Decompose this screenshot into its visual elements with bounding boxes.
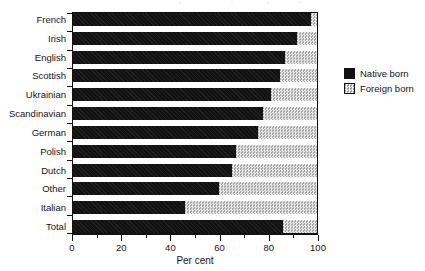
bar-row — [73, 13, 317, 26]
x-axis-tick-label: 100 — [310, 242, 326, 253]
x-axis-major-tick — [318, 235, 319, 241]
x-axis-major-tick — [121, 235, 122, 241]
bar-segment-foreign-born — [280, 69, 317, 82]
bar-segment-foreign-born — [185, 201, 317, 214]
bar-segment-native-born — [73, 32, 297, 45]
y-axis-label: Other — [0, 182, 66, 195]
x-axis-minor-tick — [97, 235, 98, 238]
bar-segment-foreign-born — [297, 32, 317, 45]
x-axis-major-tick — [170, 235, 171, 241]
x-axis-major-tick — [220, 235, 221, 241]
bar-row — [73, 51, 317, 64]
legend-item: Native born — [344, 68, 422, 79]
x-axis-minor-tick — [146, 235, 147, 238]
bar-segment-foreign-born — [258, 126, 317, 139]
scan-artifact — [0, 0, 425, 6]
bar-segment-foreign-born — [236, 145, 317, 158]
x-axis-minor-tick — [293, 235, 294, 238]
bar-segment-native-born — [73, 88, 271, 101]
x-axis-tick-label: 80 — [264, 242, 275, 253]
bar-segment-foreign-born — [263, 107, 317, 120]
x-axis-major-tick — [72, 235, 73, 241]
black-solid-swatch — [344, 68, 355, 79]
y-axis-label: Italian — [0, 201, 66, 214]
y-axis-label: Total — [0, 220, 66, 233]
bar-row — [73, 201, 317, 214]
y-axis-label: German — [0, 126, 66, 139]
bar-segment-native-born — [73, 220, 283, 233]
x-axis-tick-label: 40 — [165, 242, 176, 253]
bar-row — [73, 69, 317, 82]
bar-row — [73, 145, 317, 158]
bar-segment-native-born — [73, 126, 258, 139]
x-axis-minor-tick — [195, 235, 196, 238]
y-axis-label: English — [0, 51, 66, 64]
bar-segment-foreign-born — [271, 88, 317, 101]
bar-segment-foreign-born — [283, 220, 317, 233]
y-axis-label: Scottish — [0, 69, 66, 82]
legend-label: Native born — [360, 68, 409, 79]
chart-legend: Native bornForeign born — [344, 68, 422, 98]
bar-segment-native-born — [73, 13, 311, 26]
x-axis-title: Per cent — [176, 255, 213, 266]
x-axis-minor-tick — [244, 235, 245, 238]
x-axis-tick-label: 60 — [214, 242, 225, 253]
bar-row — [73, 164, 317, 177]
x-axis-tick-label: 20 — [116, 242, 127, 253]
bar-segment-foreign-born — [232, 164, 317, 177]
x-axis-tick-label: 0 — [69, 242, 74, 253]
bar-segment-native-born — [73, 164, 232, 177]
bar-row — [73, 88, 317, 101]
bar-segment-native-born — [73, 182, 219, 195]
bar-row — [73, 32, 317, 45]
bar-series-container — [73, 13, 317, 233]
stacked-bar-chart: FrenchIrishEnglishScottishUkrainianScand… — [0, 0, 425, 271]
bar-segment-native-born — [73, 51, 285, 64]
bar-segment-foreign-born — [219, 182, 317, 195]
bar-segment-native-born — [73, 145, 236, 158]
bar-row — [73, 220, 317, 233]
y-axis-label: Polish — [0, 145, 66, 158]
gray-hatched-swatch — [344, 83, 355, 94]
bar-row — [73, 182, 317, 195]
bar-segment-foreign-born — [311, 13, 317, 26]
y-axis-category-labels: FrenchIrishEnglishScottishUkrainianScand… — [0, 13, 66, 233]
bar-segment-native-born — [73, 69, 280, 82]
bar-segment-native-born — [73, 107, 263, 120]
legend-item: Foreign born — [344, 83, 422, 94]
bar-segment-native-born — [73, 201, 185, 214]
bar-row — [73, 126, 317, 139]
x-axis-major-tick — [269, 235, 270, 241]
bar-row — [73, 107, 317, 120]
y-axis-label: French — [0, 13, 66, 26]
legend-label: Foreign born — [360, 83, 414, 94]
y-axis-label: Ukrainian — [0, 88, 66, 101]
y-axis-label: Dutch — [0, 164, 66, 177]
bar-segment-foreign-born — [285, 51, 317, 64]
y-axis-label: Scandinavian — [0, 107, 66, 120]
y-axis-label: Irish — [0, 32, 66, 45]
